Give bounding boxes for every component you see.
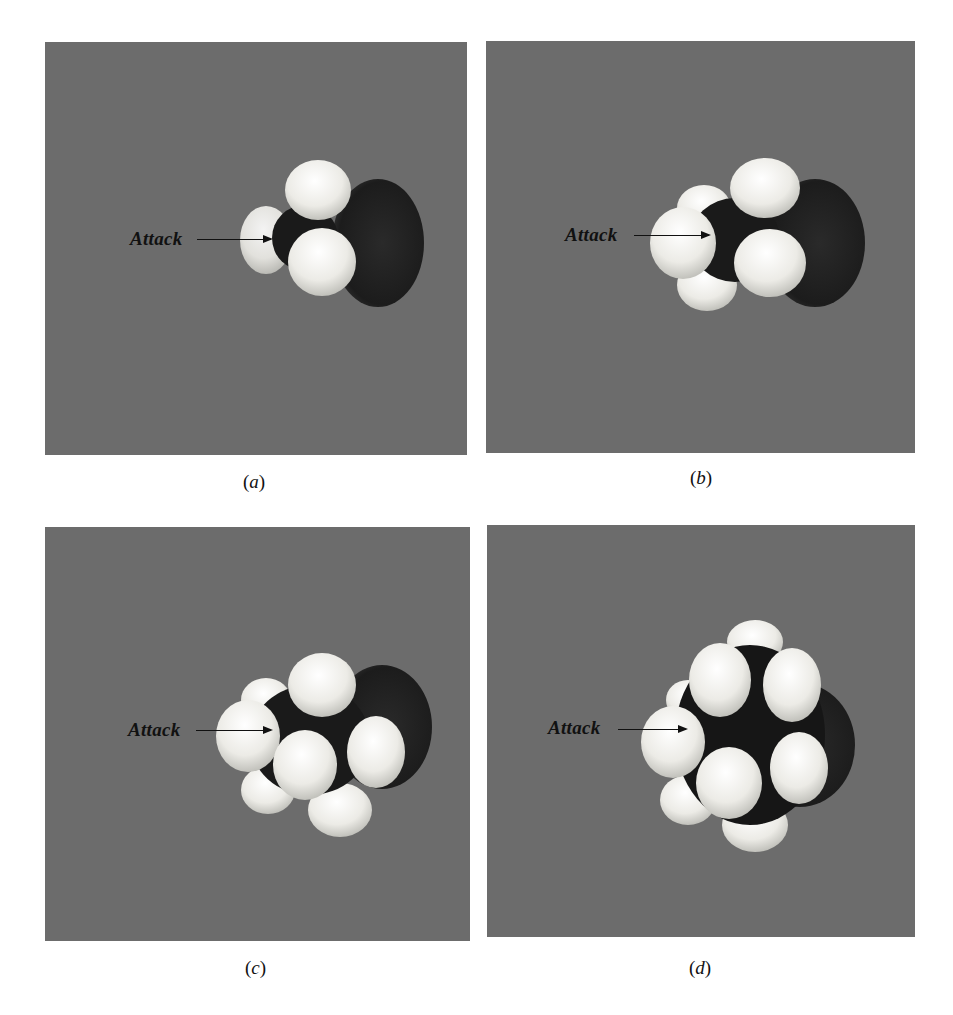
panel-a: [45, 42, 467, 455]
panel-b: [486, 41, 915, 453]
caption-d: (d): [689, 957, 711, 979]
attack-label-a: Attack: [130, 228, 182, 250]
attack-label-b: Attack: [565, 224, 617, 246]
caption-b: (b): [690, 467, 712, 489]
attack-label-c: Attack: [128, 719, 180, 741]
figure: Attack (a) Attack (b): [0, 0, 953, 1015]
caption-c: (c): [245, 957, 266, 979]
attack-arrow-a: [197, 239, 271, 240]
caption-a: (a): [243, 471, 265, 493]
molecule-a: [45, 42, 467, 455]
attack-arrow-d: [618, 729, 686, 730]
molecule-b: [486, 41, 915, 453]
attack-label-d: Attack: [548, 717, 600, 739]
panel-c: [45, 527, 470, 941]
attack-arrow-c: [196, 730, 271, 731]
attack-arrow-b: [634, 235, 709, 236]
molecule-c: [45, 527, 470, 941]
